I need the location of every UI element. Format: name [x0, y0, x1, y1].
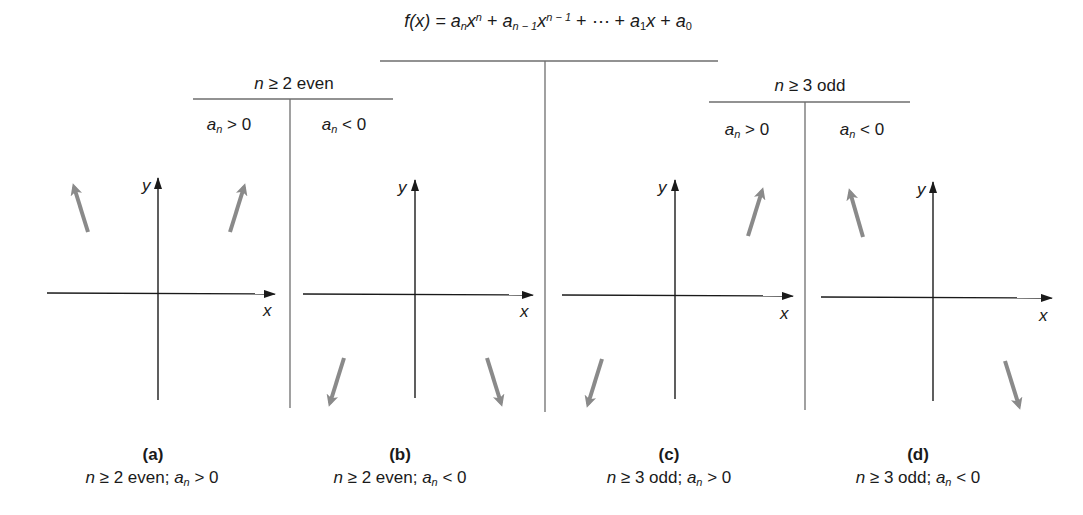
panel-d-y-label: y: [917, 181, 926, 198]
column-header-b-negative: an < 0: [322, 116, 366, 135]
formula-lhs: f(x) =: [404, 11, 451, 31]
panel-d-caption: n ≥ 3 odd; an < 0: [856, 469, 981, 488]
end-behavior-diagram: [0, 0, 1083, 515]
panel-a-letter: (a): [143, 446, 164, 463]
panel-c-y-label: y: [658, 179, 667, 196]
panel-a-end-arrows: [74, 187, 244, 232]
even-group-rule: [193, 99, 393, 408]
panel-d-end-arrows: [850, 192, 1019, 406]
panel-b-letter: (b): [389, 446, 411, 463]
panel-d-x-label: x: [1039, 307, 1048, 324]
panel-b-x-label: x: [520, 303, 529, 320]
panel-a-x-label: x: [263, 302, 272, 319]
polynomial-formula: f(x) = anxn + an − 1xn − 1 + ⋯ + a1x + a…: [404, 12, 692, 32]
column-header-c-positive: an > 0: [725, 121, 769, 140]
panel-c-letter: (c): [659, 446, 680, 463]
panel-a-caption: n ≥ 2 even; an > 0: [85, 469, 218, 488]
panel-c-caption: n ≥ 3 odd; an > 0: [607, 469, 732, 488]
panel-c-axes: [562, 180, 793, 399]
panel-b-caption: n ≥ 2 even; an < 0: [333, 469, 466, 488]
panel-d-letter: (d): [907, 446, 929, 463]
panel-a-y-label: y: [142, 177, 151, 194]
column-header-a-positive: an > 0: [207, 116, 251, 135]
panel-c-x-label: x: [780, 305, 789, 322]
panel-b-axes: [303, 180, 533, 398]
odd-group-rule: [709, 102, 910, 410]
even-group-header: n ≥ 2 even: [254, 75, 333, 92]
odd-group-header: n ≥ 3 odd: [775, 77, 846, 94]
panel-b-y-label: y: [398, 179, 407, 196]
formula-rule: [380, 61, 718, 412]
column-header-d-negative: an < 0: [840, 121, 884, 140]
